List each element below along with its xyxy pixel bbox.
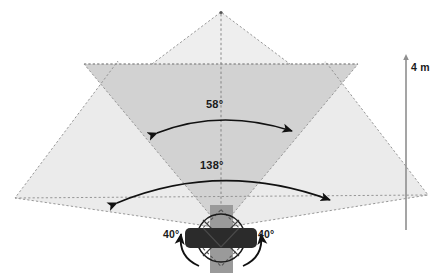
label-scale-height: 4 m — [411, 61, 430, 73]
sensor-coverage-illustration — [0, 0, 443, 276]
label-beam-narrow-angle: 58° — [206, 98, 223, 110]
apex-point — [219, 11, 222, 14]
label-beam-wide-angle: 138° — [200, 159, 224, 171]
sensor-body — [185, 228, 257, 248]
label-rotation-right: 40° — [258, 228, 274, 240]
diagram-canvas: 58° 138° 40° 40° 4 m — [0, 0, 443, 276]
label-rotation-left: 40° — [163, 228, 179, 240]
scale-bar-arrow-top — [403, 54, 409, 60]
